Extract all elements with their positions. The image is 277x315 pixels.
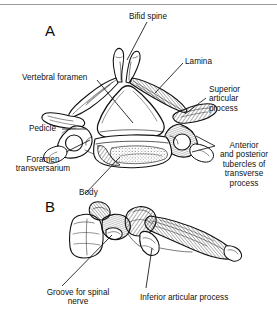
label-pedicle: Pedicle [29,124,56,133]
label-bifid-spine: Bifid spine [117,12,179,21]
anatomy-figure: A B Bifid spine Lamina Vertebral foramen… [0,0,277,315]
label-anterior-posterior-tubercles: Anterior and posterior tubercles of tran… [213,141,275,188]
label-inferior-articular-process: Inferior articular process [140,293,228,302]
label-lamina: Lamina [185,57,212,66]
panel-letter-b: B [45,198,55,215]
label-superior-articular-process: Superior articular process [209,85,240,113]
panel-letter-a: A [45,22,55,39]
leader-lamina [155,63,183,93]
label-groove-for-spinal-nerve: Groove for spinal nerve [30,288,126,307]
label-body: Body [79,188,98,197]
label-vertebral-foramen: Vertebral foramen [22,73,87,82]
label-foramen-transversarium: Foramen transversarium [6,155,80,174]
